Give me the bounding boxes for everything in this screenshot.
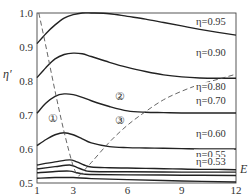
x-tick-label: 9 — [179, 184, 185, 196]
x-tick-label: 6 — [125, 184, 131, 196]
y-tick-label: 0.6 — [19, 143, 33, 155]
x-tick-label: 3 — [70, 184, 76, 196]
region-marker: ② — [115, 90, 125, 102]
y-tick-label: 0.8 — [19, 75, 33, 87]
y-tick-label: 0.5 — [19, 177, 33, 189]
curve-label: η=0.95 — [196, 16, 226, 27]
y-axis-label: η′ — [3, 67, 12, 81]
chart: 1369120.50.60.70.80.91.0 η=0.95η=0.90η=0… — [0, 0, 249, 196]
curve-label: η=0.53 — [196, 156, 226, 167]
line-labels: η=0.95η=0.90η=0.80η=0.70η=0.60η=0.55η=0.… — [194, 16, 234, 167]
x-tick-label: 12 — [231, 184, 242, 196]
region-marker: ① — [48, 112, 58, 124]
curve-label: η=0.70 — [196, 95, 226, 106]
curve-label: η=0.90 — [196, 47, 226, 58]
y-tick-label: 1.0 — [19, 7, 33, 19]
y-tick-label: 0.9 — [19, 41, 33, 53]
curve-label: η=0.60 — [196, 128, 226, 139]
region-marker: ③ — [115, 114, 125, 126]
curve-label: η=0.80 — [196, 81, 226, 92]
x-tick-label: 1 — [34, 184, 40, 196]
y-tick-label: 0.7 — [19, 109, 33, 121]
efficiency-curve — [37, 177, 236, 182]
x-axis-label: E — [239, 162, 248, 176]
